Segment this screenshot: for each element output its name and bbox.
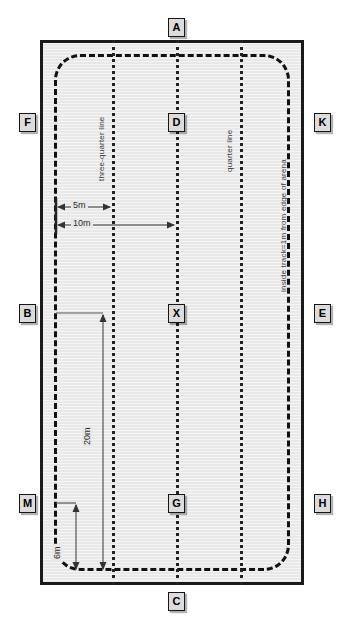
arena-marker-c: C <box>168 592 185 611</box>
arena-marker-h: H <box>314 494 331 513</box>
arena-marker-d: D <box>168 113 185 132</box>
three-quarter-line-label: three-quarter line <box>97 116 106 181</box>
quarter-line <box>240 40 243 585</box>
dimension-6m-label: 6m <box>52 544 62 561</box>
quarter-line-label: quarter line <box>225 130 234 172</box>
arena-marker-g: G <box>168 494 185 513</box>
dimension-5m-label: 5m <box>71 200 88 210</box>
arena-marker-x: X <box>168 304 185 323</box>
arena-marker-m: M <box>19 494 36 513</box>
arena-marker-a: A <box>168 18 185 37</box>
arena-marker-e: E <box>314 304 331 323</box>
dimension-10m-label: 10m <box>71 218 93 228</box>
three-quarter-line <box>112 40 115 585</box>
dimension-20m-label: 20m <box>82 425 92 447</box>
arena-marker-f: F <box>19 113 36 132</box>
arena-marker-b: B <box>19 304 36 323</box>
inside-track-label: inside track=1m from edge of arena <box>279 159 288 292</box>
arena-diagram: three-quarter line quarter line inside t… <box>0 0 347 632</box>
arena-marker-k: K <box>314 113 331 132</box>
